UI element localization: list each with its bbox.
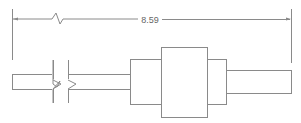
dimension-label: 8.59 bbox=[141, 15, 159, 25]
shaft-break-symbol bbox=[53, 60, 76, 103]
left-shaft-segment bbox=[13, 75, 53, 90]
right-shaft-segment bbox=[227, 71, 292, 94]
middle-shaft-segment bbox=[69, 75, 130, 90]
right-arrowhead-icon bbox=[286, 18, 291, 21]
left-arrowhead-icon bbox=[13, 18, 18, 21]
shaft-drawing: 8.59 bbox=[0, 0, 301, 123]
right-step bbox=[208, 60, 227, 105]
dimension-break-symbol bbox=[13, 13, 138, 24]
left-step bbox=[131, 60, 162, 105]
central-collar bbox=[162, 48, 208, 118]
